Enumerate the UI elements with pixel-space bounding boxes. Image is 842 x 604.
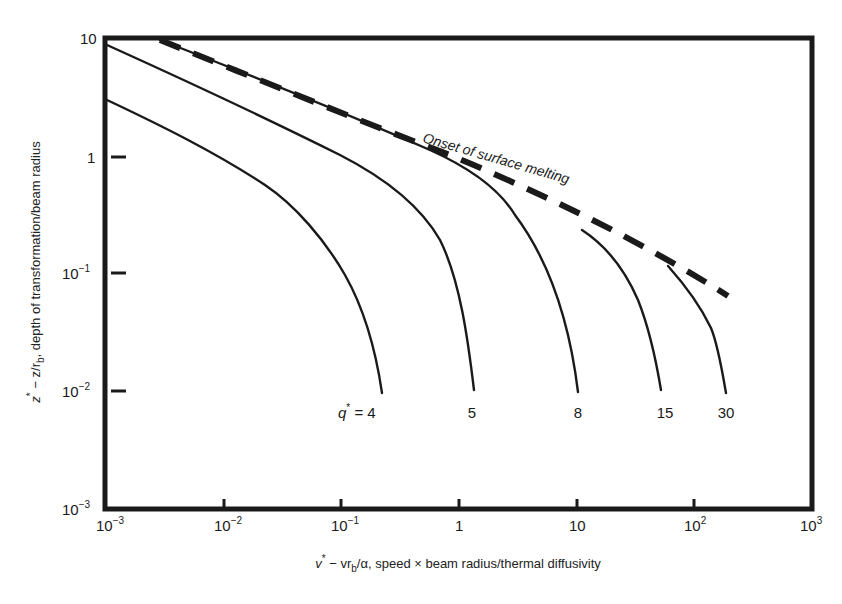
y-tick-label: 10−2 bbox=[62, 381, 91, 400]
curve-labels: q* = 4 5 8 15 30 bbox=[338, 402, 734, 421]
y-tick-label: 1 bbox=[87, 149, 95, 166]
y-tick-label: 10 bbox=[80, 30, 97, 47]
x-tick-label: 10−3 bbox=[96, 515, 125, 534]
x-tick-label: 10−1 bbox=[331, 515, 360, 534]
x-tick-label: 10 bbox=[569, 517, 586, 534]
curve-q15 bbox=[582, 230, 661, 390]
curve-label-q5: 5 bbox=[468, 404, 476, 421]
x-tick-label: 102 bbox=[684, 515, 707, 534]
x-tick-labels: 10−3 10−2 10−1 1 10 102 103 bbox=[96, 515, 823, 534]
x-tick-label: 10−2 bbox=[214, 515, 243, 534]
curve-label-q15: 15 bbox=[657, 404, 674, 421]
x-axis-title: v* − vrb/α, speed × beam radius/thermal … bbox=[315, 553, 601, 574]
curves bbox=[107, 40, 726, 393]
curve-q30 bbox=[668, 266, 726, 393]
y-tick-marks bbox=[111, 157, 126, 391]
x-tick-label: 1 bbox=[455, 517, 463, 534]
y-tick-labels: 10 1 10−1 10−2 10−3 bbox=[62, 30, 97, 518]
melting-onset-dashed-line bbox=[160, 40, 728, 296]
curve-q4 bbox=[107, 100, 382, 393]
y-tick-label: 10−3 bbox=[62, 499, 91, 518]
curve-q8 bbox=[160, 40, 578, 392]
y-axis-title: z* − z/rb, depth of transformation/beam … bbox=[25, 141, 46, 404]
curve-label-q4: q* = 4 bbox=[338, 402, 376, 421]
plot-frame bbox=[105, 38, 812, 509]
x-tick-label: 103 bbox=[800, 515, 823, 534]
curve-q5 bbox=[107, 45, 474, 390]
chart: 10−3 10−2 10−1 1 10 102 103 10 1 10−1 10… bbox=[0, 0, 842, 604]
curve-label-q8: 8 bbox=[574, 404, 582, 421]
y-tick-label: 10−1 bbox=[62, 263, 91, 282]
curve-label-q30: 30 bbox=[718, 404, 735, 421]
